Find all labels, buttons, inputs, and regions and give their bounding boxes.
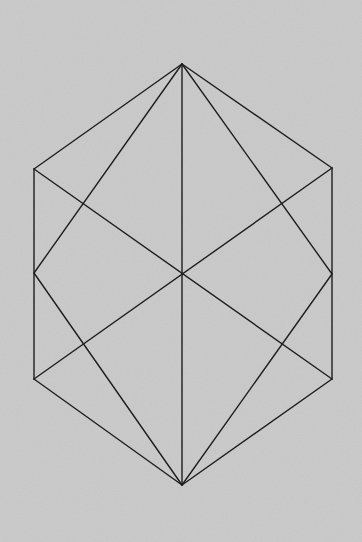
paper-texture — [0, 0, 362, 542]
hexagon-line-diagram — [0, 0, 362, 542]
diagram-canvas — [0, 0, 362, 542]
